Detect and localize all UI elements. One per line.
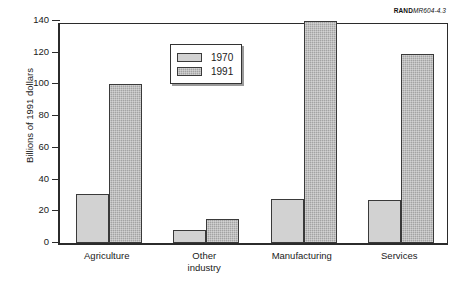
y-axis-tick-label: 140 xyxy=(33,14,49,25)
legend-label-1991: 1991 xyxy=(211,66,233,77)
bar-services-1970 xyxy=(368,200,401,243)
y-axis-tick: 80 xyxy=(52,115,60,116)
y-axis-tick-label: 100 xyxy=(33,77,49,88)
rand-logo-text: RAND xyxy=(394,7,413,14)
x-axis-label-line: Services xyxy=(351,250,449,262)
y-axis-tick-label: 0 xyxy=(44,236,49,247)
bar-agriculture-1970 xyxy=(76,194,109,243)
y-axis-tick: 140 xyxy=(52,20,60,21)
x-axis-label-line: industry xyxy=(156,262,254,274)
y-axis-tick: 20 xyxy=(52,210,60,211)
bar-chart-figure: RANDMR604-4.3 Billions of 1991 dollars 0… xyxy=(0,0,452,284)
x-axis-label-services: Services xyxy=(351,250,449,262)
bar-agriculture-1991 xyxy=(109,84,142,243)
y-axis-tick: 100 xyxy=(52,83,60,84)
bar-other-industry-1991 xyxy=(206,219,239,243)
y-axis-tick-label: 20 xyxy=(38,204,49,215)
x-axis-label-line: Agriculture xyxy=(58,250,156,262)
rand-source-credit: RANDMR604-4.3 xyxy=(394,7,446,14)
legend-swatch-1970 xyxy=(177,53,202,62)
y-axis-tick: 40 xyxy=(52,179,60,180)
bar-manufacturing-1991 xyxy=(304,21,337,243)
y-axis-tick-label: 60 xyxy=(38,141,49,152)
legend-item-1991: 1991 xyxy=(177,64,233,78)
x-axis-label-manufacturing: Manufacturing xyxy=(253,250,351,262)
bar-services-1991 xyxy=(401,54,434,243)
y-axis-tick: 0 xyxy=(52,242,60,243)
chart-legend: 19701991 xyxy=(170,44,242,84)
legend-swatch-1991 xyxy=(177,67,202,76)
y-axis-tick-label: 80 xyxy=(38,109,49,120)
rand-document-number: MR604-4.3 xyxy=(413,7,446,14)
x-axis-label-line: Manufacturing xyxy=(253,250,351,262)
bars-layer xyxy=(60,24,447,243)
y-axis-tick: 120 xyxy=(52,52,60,53)
legend-label-1970: 1970 xyxy=(211,52,233,63)
plot-area: 020406080100120140 xyxy=(58,23,448,245)
x-axis-label-line: Other xyxy=(156,250,254,262)
x-axis-label-agriculture: Agriculture xyxy=(58,250,156,262)
legend-item-1970: 1970 xyxy=(177,50,233,64)
x-axis-label-other-industry: Otherindustry xyxy=(156,250,254,273)
y-axis-tick-label: 120 xyxy=(33,46,49,57)
bar-other-industry-1970 xyxy=(173,230,206,243)
bar-manufacturing-1970 xyxy=(271,199,304,243)
y-axis-tick: 60 xyxy=(52,147,60,148)
y-axis-tick-label: 40 xyxy=(38,173,49,184)
